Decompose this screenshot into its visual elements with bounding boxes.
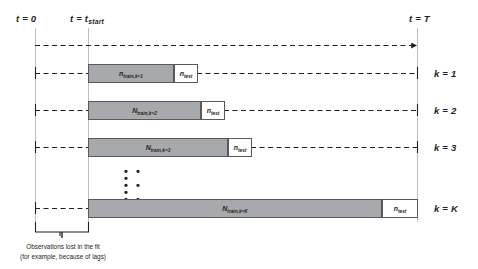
train-box-k3-label: Ntrain,k=3 bbox=[146, 144, 171, 152]
row-label-k2: k = 2 bbox=[434, 105, 456, 116]
axis-label-t0: t = 0 bbox=[16, 13, 36, 24]
test-box-k1[interactable]: ntest bbox=[174, 64, 198, 83]
train-box-k1[interactable]: ntrain,k=1 bbox=[88, 64, 174, 83]
train-box-k3[interactable]: Ntrain,k=3 bbox=[88, 138, 228, 157]
axis-label-tT: t = T bbox=[409, 13, 430, 24]
diagram-canvas: t = 0 t = tstart t = T ntrain,k=1 ntest … bbox=[0, 0, 478, 269]
train-box-kK-label: Ntrain,k=K bbox=[222, 205, 248, 213]
row-label-k3: k = 3 bbox=[434, 142, 456, 153]
lost-observations-annotation: Observations lost in the fit (for exampl… bbox=[8, 242, 118, 262]
test-box-k2-label: ntest bbox=[207, 107, 220, 115]
test-box-k2[interactable]: ntest bbox=[201, 101, 225, 120]
train-box-k1-label: ntrain,k=1 bbox=[119, 70, 143, 78]
annotation-line-1: Observations lost in the fit bbox=[8, 242, 118, 252]
train-box-k2-label: Ntrain,k=2 bbox=[132, 107, 157, 115]
vertical-ellipsis: • • • • • • • • • bbox=[124, 168, 150, 190]
axis-label-tstart-subscript: start bbox=[88, 18, 104, 25]
train-box-kK[interactable]: Ntrain,k=K bbox=[88, 199, 382, 218]
test-box-k3[interactable]: ntest bbox=[228, 138, 252, 157]
test-box-k1-label: ntest bbox=[180, 70, 193, 78]
row-label-k1: k = 1 bbox=[434, 68, 456, 79]
row-label-kK: k = K bbox=[434, 203, 458, 214]
test-box-k3-label: ntest bbox=[234, 144, 247, 152]
diagram-lines-layer bbox=[0, 0, 478, 269]
axis-label-tstart-prefix: t = t bbox=[70, 13, 88, 24]
train-box-k2[interactable]: Ntrain,k=2 bbox=[88, 101, 201, 120]
test-box-kK-label: ntest bbox=[394, 205, 407, 213]
axis-label-tstart: t = tstart bbox=[70, 13, 104, 24]
test-box-kK[interactable]: ntest bbox=[382, 199, 418, 218]
annotation-line-2: (for example, because of lags) bbox=[8, 252, 118, 262]
